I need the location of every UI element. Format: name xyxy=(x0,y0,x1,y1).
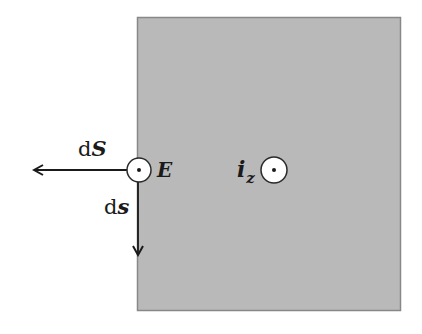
iz-label: iz xyxy=(237,158,255,181)
ds-label-prefix: d xyxy=(104,195,117,219)
iz-point-symbol xyxy=(261,157,287,183)
dS-label-prefix: d xyxy=(78,137,91,161)
iz-label-subscript: z xyxy=(246,169,255,187)
ds-label: ds xyxy=(104,196,129,218)
iz-dot-icon xyxy=(272,168,276,172)
diagram-canvas xyxy=(0,0,422,334)
E-dot-icon xyxy=(137,168,141,172)
E-label-vector: E xyxy=(157,158,172,182)
iz-label-vector: i xyxy=(237,156,245,182)
E-label: E xyxy=(157,160,172,180)
ds-label-vector: s xyxy=(117,194,129,219)
E-point-symbol xyxy=(127,158,151,182)
dS-label: dS xyxy=(78,138,107,160)
dS-label-vector: S xyxy=(91,136,106,161)
